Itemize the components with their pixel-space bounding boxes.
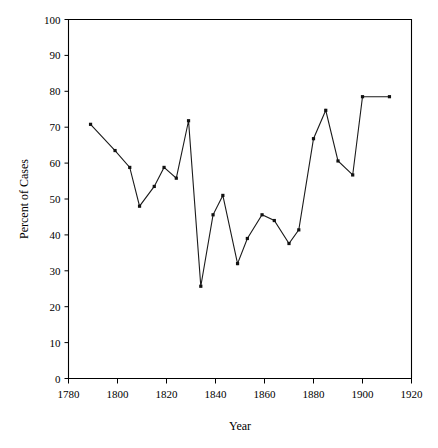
data-point-marker (175, 177, 178, 180)
x-axis-ticks: 17801800182018401860188019001920 (58, 379, 424, 400)
y-tick-label: 20 (50, 301, 62, 313)
data-point-marker (246, 237, 249, 240)
data-point-marker (388, 95, 391, 98)
x-tick-label: 1880 (303, 388, 326, 400)
y-tick-label: 80 (50, 85, 62, 97)
data-point-marker (153, 185, 156, 188)
data-point-marker (336, 159, 339, 162)
x-tick-label: 1920 (401, 388, 424, 400)
plot-area-background (68, 19, 412, 378)
y-tick-label: 0 (55, 373, 61, 385)
data-point-marker (128, 166, 131, 169)
data-point-marker (221, 194, 224, 197)
data-point-marker (236, 262, 239, 265)
data-point-marker (351, 173, 354, 176)
x-tick-label: 1800 (107, 388, 130, 400)
data-point-marker (312, 137, 315, 140)
y-axis-ticks: 0102030405060708090100 (44, 14, 69, 385)
y-tick-label: 100 (44, 14, 61, 26)
line-chart: 0102030405060708090100 17801800182018401… (0, 0, 438, 448)
data-point-marker (211, 213, 214, 216)
y-tick-label: 50 (50, 193, 62, 205)
x-tick-label: 1860 (254, 388, 277, 400)
x-tick-label: 1780 (58, 388, 81, 400)
data-point-marker (89, 123, 92, 126)
y-tick-label: 10 (50, 337, 62, 349)
y-tick-label: 70 (50, 121, 62, 133)
data-point-marker (162, 166, 165, 169)
data-point-marker (287, 242, 290, 245)
data-point-marker (324, 109, 327, 112)
x-tick-label: 1900 (352, 388, 375, 400)
data-point-marker (361, 95, 364, 98)
y-tick-label: 40 (50, 229, 62, 241)
x-tick-label: 1840 (205, 388, 228, 400)
data-point-marker (199, 285, 202, 288)
data-point-marker (273, 219, 276, 222)
x-axis-title: Year (229, 419, 251, 433)
data-point-marker (113, 149, 116, 152)
data-point-marker (260, 213, 263, 216)
data-point-marker (187, 119, 190, 122)
y-tick-label: 60 (50, 157, 62, 169)
data-point-marker (138, 205, 141, 208)
y-axis-title: Percent of Cases (17, 159, 31, 239)
data-point-marker (297, 228, 300, 231)
y-tick-label: 90 (50, 49, 62, 61)
chart-figure: 0102030405060708090100 17801800182018401… (0, 0, 438, 448)
x-tick-label: 1820 (156, 388, 179, 400)
y-tick-label: 30 (50, 265, 62, 277)
